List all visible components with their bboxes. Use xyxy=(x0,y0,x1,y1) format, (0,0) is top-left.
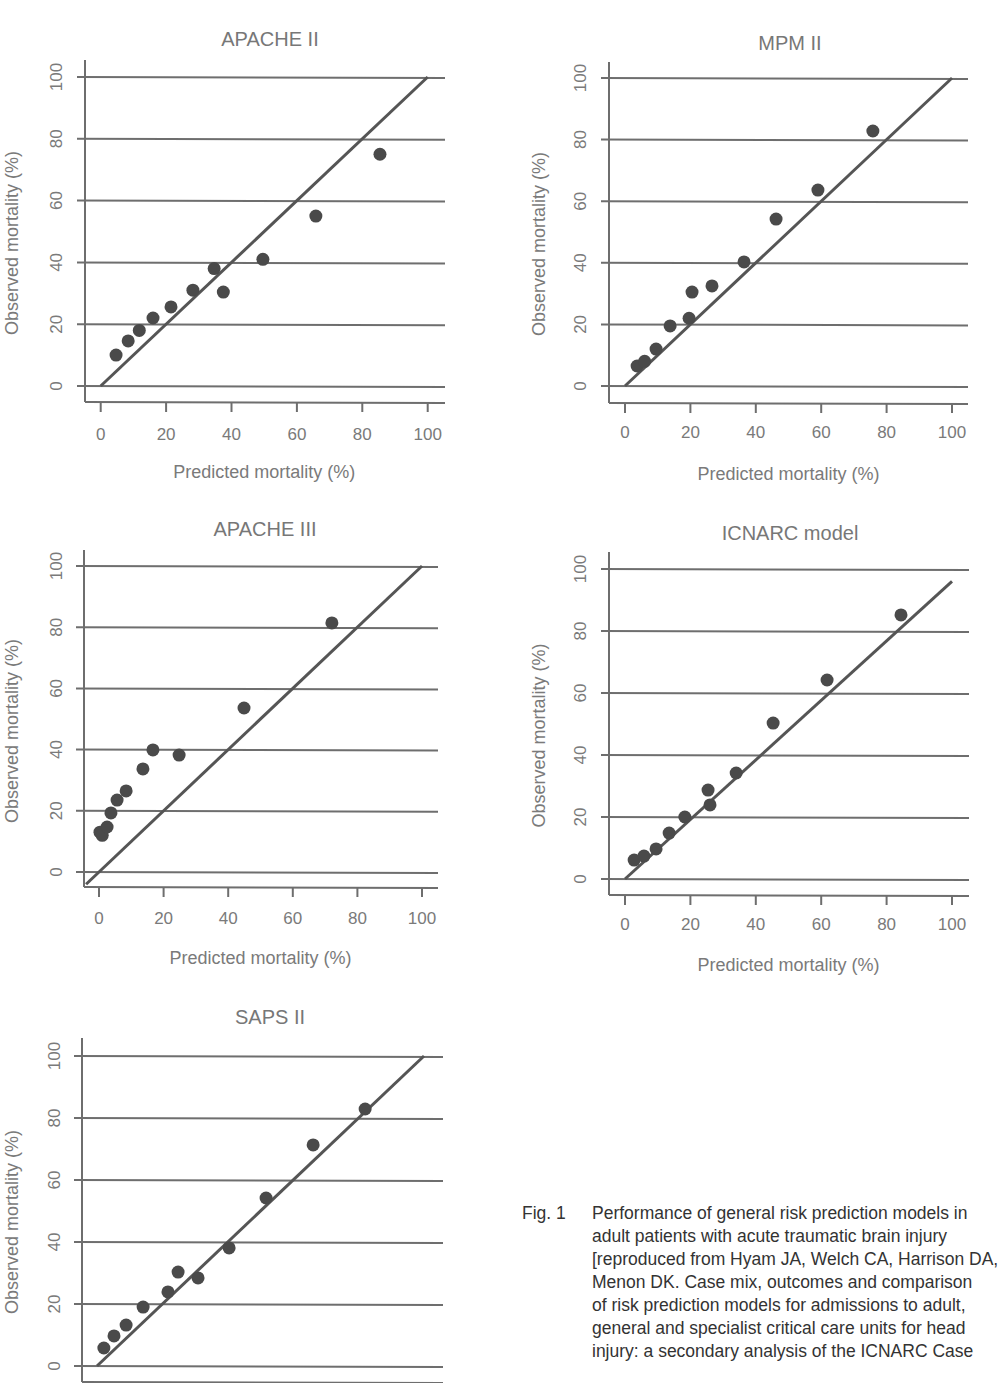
gridline xyxy=(74,1118,443,1119)
y-tick-label: 80 xyxy=(45,1109,64,1128)
scatter-plot: 020406080100020406080100Observed mortali… xyxy=(520,20,990,490)
gridline xyxy=(601,140,968,141)
y-axis-title: Observed mortality (%) xyxy=(2,639,22,823)
gridline xyxy=(74,1366,443,1367)
data-point xyxy=(770,213,783,226)
reference-line xyxy=(101,77,428,386)
x-axis-title: Predicted mortality (%) xyxy=(697,955,879,975)
chart-panel-saps-ii: SAPS II 020406080100Observed mortality (… xyxy=(0,1000,470,1383)
y-tick-label: 80 xyxy=(47,618,66,637)
data-point xyxy=(359,1103,372,1116)
data-point xyxy=(120,1319,133,1332)
y-tick-label: 40 xyxy=(571,746,590,765)
y-tick-label: 60 xyxy=(47,191,66,210)
data-point xyxy=(186,284,199,297)
x-tick-label: 60 xyxy=(812,423,831,442)
gridline xyxy=(77,77,445,78)
data-point xyxy=(223,1241,236,1254)
gridline xyxy=(74,1304,443,1305)
chart-panel-apache-iii: APACHE III 020406080100020406080100Obser… xyxy=(0,510,470,1000)
gridline xyxy=(74,1242,443,1243)
y-tick-label: 20 xyxy=(45,1295,64,1314)
y-tick-label: 40 xyxy=(571,253,590,272)
data-point xyxy=(161,1285,174,1298)
y-tick-label: 100 xyxy=(47,552,66,580)
x-tick-label: 20 xyxy=(154,909,173,928)
scatter-plot: 020406080100020406080100Observed mortali… xyxy=(0,510,470,980)
x-axis xyxy=(85,402,445,403)
gridline xyxy=(74,1180,443,1181)
chart-panel-icnarc: ICNARC model 020406080100020406080100Obs… xyxy=(520,510,990,1000)
data-point xyxy=(133,324,146,337)
data-point xyxy=(705,279,718,292)
x-tick-label: 60 xyxy=(283,909,302,928)
data-point xyxy=(821,673,834,686)
x-tick-label: 80 xyxy=(348,909,367,928)
data-point xyxy=(256,253,269,266)
data-point xyxy=(325,616,338,629)
x-axis xyxy=(609,895,969,896)
x-tick-label: 0 xyxy=(620,915,629,934)
x-tick-label: 80 xyxy=(353,425,372,444)
y-tick-label: 100 xyxy=(571,64,590,92)
x-tick-label: 20 xyxy=(681,915,700,934)
data-point xyxy=(686,286,699,299)
y-tick-label: 20 xyxy=(47,801,66,820)
y-axis-title: Observed mortality (%) xyxy=(2,151,22,335)
gridline xyxy=(601,201,968,202)
data-point xyxy=(137,1301,150,1314)
gridline xyxy=(601,324,968,325)
y-tick-label: 40 xyxy=(45,1233,64,1252)
gridline xyxy=(77,386,445,387)
y-tick-label: 100 xyxy=(45,1042,64,1070)
y-tick-label: 40 xyxy=(47,253,66,272)
x-axis-title: Predicted mortality (%) xyxy=(173,462,355,482)
x-tick-label: 40 xyxy=(746,423,765,442)
data-point xyxy=(650,842,663,855)
gridline xyxy=(601,386,968,387)
data-point xyxy=(894,608,907,621)
reference-line xyxy=(625,78,952,386)
data-point xyxy=(192,1271,205,1284)
x-tick-label: 100 xyxy=(414,425,442,444)
data-point xyxy=(147,312,160,325)
data-point xyxy=(664,319,677,332)
y-tick-label: 0 xyxy=(47,381,66,390)
data-point xyxy=(97,1342,110,1355)
x-tick-label: 100 xyxy=(938,915,966,934)
data-point xyxy=(811,184,824,197)
y-tick-label: 60 xyxy=(45,1171,64,1190)
chart-panel-apache-ii: APACHE II 020406080100020406080100Observ… xyxy=(0,20,470,510)
data-point xyxy=(165,300,178,313)
x-tick-label: 100 xyxy=(408,909,436,928)
data-point xyxy=(767,717,780,730)
gridline xyxy=(76,688,438,689)
gridline xyxy=(77,201,445,202)
data-point xyxy=(637,850,650,863)
x-tick-label: 0 xyxy=(620,423,629,442)
y-axis-title: Observed mortality (%) xyxy=(529,643,549,827)
y-tick-label: 0 xyxy=(571,874,590,883)
gridline xyxy=(601,631,969,632)
y-tick-label: 60 xyxy=(571,684,590,703)
x-axis xyxy=(609,403,968,404)
gridline xyxy=(601,817,969,818)
gridline xyxy=(76,627,438,628)
x-tick-label: 80 xyxy=(877,915,896,934)
y-axis-title: Observed mortality (%) xyxy=(529,152,549,336)
y-axis-title: Observed mortality (%) xyxy=(2,1130,22,1314)
y-tick-label: 100 xyxy=(571,555,590,583)
data-point xyxy=(172,1266,185,1279)
data-point xyxy=(208,262,221,275)
scatter-plot: 020406080100020406080100Observed mortali… xyxy=(0,20,470,490)
data-point xyxy=(702,784,715,797)
y-tick-label: 80 xyxy=(571,130,590,149)
scatter-plot: 020406080100Observed mortality (%) xyxy=(0,1000,470,1383)
x-tick-label: 0 xyxy=(94,909,103,928)
y-tick-label: 80 xyxy=(47,129,66,148)
data-point xyxy=(173,749,186,762)
data-point xyxy=(260,1191,273,1204)
y-tick-label: 20 xyxy=(571,315,590,334)
data-point xyxy=(638,355,651,368)
data-point xyxy=(373,148,386,161)
